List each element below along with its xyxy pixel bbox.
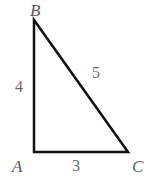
vertex-label-b: B [30,2,40,19]
triangle-outline [34,20,128,152]
side-length-label-ab: 4 [15,79,23,95]
side-length-label-ac: 3 [72,158,80,174]
vertex-label-c: C [132,158,143,175]
side-length-label-bc: 5 [92,65,100,81]
vertex-label-a: A [12,158,22,175]
triangle-figure: B A C 4 5 3 [0,0,150,184]
